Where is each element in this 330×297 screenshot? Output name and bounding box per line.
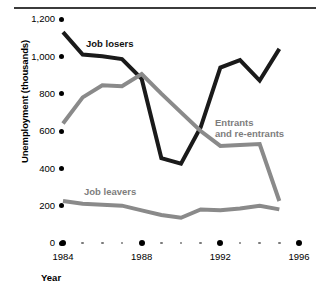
series-label-entrants: Entrants and re-entrants	[215, 117, 284, 139]
y-tick-0: 0	[0, 237, 64, 249]
series-label-job-losers: Job losers	[86, 38, 134, 49]
x-axis-title: Year	[41, 272, 61, 283]
y-tick-dot	[59, 91, 64, 96]
y-tick-800: 800	[0, 88, 64, 100]
y-tick-label: 1,200	[31, 14, 55, 24]
x-tick-dot	[60, 240, 66, 246]
x-tick-1985	[77, 237, 89, 249]
y-tick-600: 600	[0, 125, 64, 137]
x-tick-1988	[136, 237, 148, 249]
y-tick-label: 0	[50, 238, 55, 248]
y-tick-1200: 1,200	[0, 13, 64, 25]
x-tick-1986	[96, 237, 108, 249]
x-tick-1987	[116, 237, 128, 249]
y-tick-label: 200	[39, 201, 55, 211]
x-tick-dot	[278, 242, 281, 245]
x-tick-1993	[234, 237, 246, 249]
x-tick-dot	[239, 242, 242, 245]
x-tick-1992	[214, 237, 226, 249]
x-tick-1989	[155, 237, 167, 249]
unemployment-line-chart: Unemployment (thousands) 02004006008001,…	[0, 0, 330, 297]
x-tick-dot	[296, 240, 302, 246]
plot-area	[0, 0, 330, 297]
x-tick-1996	[293, 237, 305, 249]
y-tick-dot	[59, 166, 64, 171]
y-tick-label: 400	[39, 164, 55, 174]
x-tick-1995	[273, 237, 285, 249]
x-tick-label-1992: 1992	[210, 251, 231, 262]
x-tick-dot	[160, 242, 163, 245]
series-label-job-leavers: Job leavers	[84, 186, 136, 197]
series-line-job-losers	[63, 32, 279, 164]
series-lines	[0, 0, 330, 297]
series-label-entrants-line1: Entrants	[215, 117, 254, 128]
x-tick-label-1988: 1988	[131, 251, 152, 262]
x-tick-dot	[121, 242, 124, 245]
y-tick-dot	[59, 203, 64, 208]
y-tick-dot	[59, 54, 64, 59]
top-rule-divider	[14, 7, 316, 9]
y-tick-label: 600	[39, 126, 55, 136]
x-tick-1991	[195, 237, 207, 249]
series-line-job-leavers	[63, 201, 279, 218]
x-tick-dot	[139, 240, 145, 246]
y-tick-400: 400	[0, 162, 64, 174]
x-tick-1990	[175, 237, 187, 249]
x-tick-dot	[101, 242, 104, 245]
x-tick-label-1996: 1996	[288, 251, 309, 262]
y-tick-dot	[59, 17, 64, 22]
y-tick-200: 200	[0, 200, 64, 212]
x-tick-dot	[199, 242, 202, 245]
series-label-entrants-line2: and re-entrants	[215, 128, 284, 139]
y-tick-label: 1,000	[31, 52, 55, 62]
x-tick-dot	[217, 240, 223, 246]
x-tick-1994	[254, 237, 266, 249]
x-tick-dot	[81, 242, 84, 245]
x-tick-label-1984: 1984	[52, 251, 73, 262]
x-tick-dot	[258, 242, 261, 245]
x-tick-1984	[57, 237, 69, 249]
x-tick-dot	[180, 242, 183, 245]
y-tick-dot	[59, 129, 64, 134]
y-tick-1000: 1,000	[0, 50, 64, 62]
y-tick-label: 800	[39, 89, 55, 99]
